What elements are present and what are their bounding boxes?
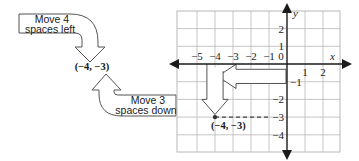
x-tick-label: 1 xyxy=(302,66,308,78)
coordinate-diagram: Move 4 spaces left (−4, −3) Move 3 space… xyxy=(0,0,359,161)
y-tick-label: −4 xyxy=(272,129,284,141)
y-tick-label: 2 xyxy=(279,23,285,35)
y-tick-label: 1 xyxy=(279,40,285,52)
x-axis-right-arrowhead xyxy=(342,59,352,69)
x-tick-label: 2 xyxy=(320,66,326,78)
graph-point-label: (−4, −3) xyxy=(211,120,246,132)
y-tick-label: −3 xyxy=(272,111,284,123)
move-left-line2: spaces left xyxy=(25,23,75,35)
y-tick-label: −1 xyxy=(290,76,302,88)
x-tick-label: −4 xyxy=(209,50,221,62)
point-label: (−4, −3) xyxy=(75,61,110,73)
x-tick-label: −1 xyxy=(263,50,275,62)
plotted-point xyxy=(213,115,217,119)
y-axis-label: y xyxy=(292,7,298,19)
x-axis-label: x xyxy=(329,50,335,62)
y-axis-bottom-arrowhead xyxy=(282,150,292,160)
move-down-line2: spaces down xyxy=(115,104,176,116)
x-tick-label: −2 xyxy=(245,50,257,62)
explanation-panel: Move 4 spaces left (−4, −3) Move 3 space… xyxy=(19,13,177,116)
x-axis-left-arrowhead xyxy=(169,59,179,69)
x-tick-label: −5 xyxy=(191,50,203,62)
x-tick-label: −3 xyxy=(227,50,239,62)
y-tick-label: −2 xyxy=(272,93,284,105)
y-axis-top-arrowhead xyxy=(282,3,292,13)
